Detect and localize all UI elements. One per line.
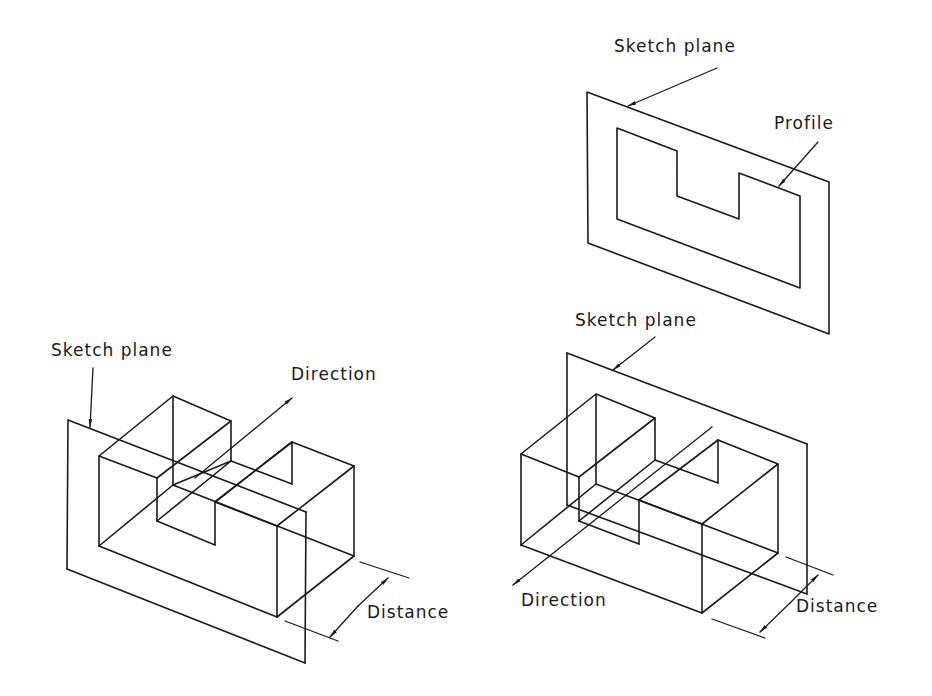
left-sketch-plane-label: Sketch plane [51,342,173,359]
right-u-block [521,394,778,613]
left-u-block [99,396,354,617]
top-profile-label: Profile [774,115,834,132]
top-profile-leader [779,142,818,186]
right-sketch-plane-label: Sketch plane [575,312,697,329]
top-sketch-plane-leader [628,68,717,106]
right-sketch-plane-leader [613,337,655,370]
left-distance-label: Distance [367,604,449,621]
left-sketch-plane [67,420,306,663]
left-sketch-plane-leader [90,368,93,427]
top-sketch-plane-label: Sketch plane [614,38,736,55]
right-distance-label: Distance [796,598,878,615]
left-direction-label: Direction [291,366,377,383]
right-direction-label: Direction [521,592,607,609]
